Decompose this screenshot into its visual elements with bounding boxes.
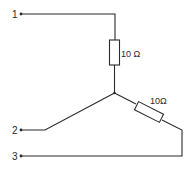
terminal-3-dot: [20, 155, 23, 158]
resistor-r1: [110, 40, 120, 65]
wire-r2-terminal-3: [21, 120, 182, 156]
resistor-r2-value: 10Ω: [150, 96, 167, 106]
terminal-2-label: 2: [12, 125, 18, 136]
wire-terminal-2: [21, 93, 115, 130]
wire-terminal-1: [21, 14, 115, 40]
resistor-r1-value: 10 Ω: [121, 49, 141, 59]
terminal-1-label: 1: [12, 9, 18, 20]
terminal-3-label: 3: [12, 151, 18, 162]
circuit-diagram: 1 10 Ω 2 10Ω 3: [0, 0, 193, 179]
wire-junction-r2: [115, 93, 137, 104]
